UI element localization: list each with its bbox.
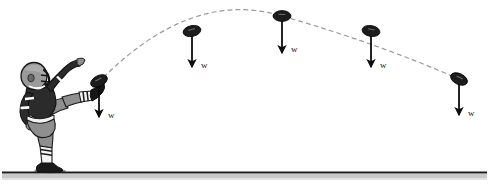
- weight-label-1: w: [108, 111, 115, 120]
- figure-canvas: [0, 0, 489, 190]
- ground-shadow: [2, 174, 487, 178]
- ball-5: [449, 70, 470, 88]
- weight-label-2: w: [201, 61, 208, 70]
- player-facemask-bar-1: [41, 75, 49, 76]
- weight-label-5: w: [468, 109, 475, 118]
- player-shoulder-stripe: [25, 98, 34, 99]
- player-facemask-bar-2: [41, 81, 49, 82]
- ball-4: [361, 24, 381, 38]
- football-punter: [20, 58, 105, 173]
- player-kicking-shin: [62, 93, 82, 107]
- football-2-group: [182, 24, 202, 67]
- weight-label-4: w: [380, 61, 387, 70]
- player-raised-hand: [77, 58, 85, 66]
- player-helmet-earhole: [28, 74, 34, 82]
- ball-2: [182, 24, 202, 38]
- football-positions-layer: [89, 11, 470, 117]
- player-support-cleat: [36, 163, 62, 172]
- ground-shadow-lower: [2, 178, 487, 180]
- football-4-group: [361, 24, 381, 67]
- weight-label-3: w: [291, 45, 298, 54]
- ground-group: [2, 173, 487, 181]
- football-3-group: [273, 11, 291, 53]
- player-raised-arm: [46, 60, 80, 92]
- football-5-group: [449, 70, 470, 115]
- ball-3: [273, 11, 291, 22]
- player-back-arm-stripe: [21, 107, 30, 108]
- projectile-motion-figure: wwwww: [0, 0, 489, 190]
